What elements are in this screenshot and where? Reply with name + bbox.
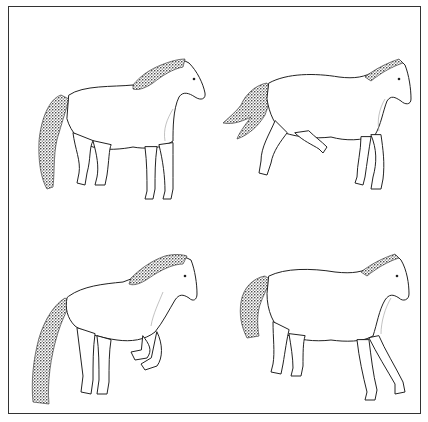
hind-leg-front	[289, 334, 305, 376]
body	[267, 61, 411, 140]
hind-leg-back	[271, 322, 289, 374]
tail	[32, 298, 71, 404]
horse-trotting-illustration	[215, 27, 421, 231]
horse-walking-panel	[215, 229, 421, 422]
horse-walking-illustration	[215, 229, 421, 422]
tail	[240, 276, 271, 338]
hind-leg-back	[73, 133, 93, 185]
body	[66, 257, 197, 340]
front-leg-back	[357, 340, 377, 400]
hind-leg-back	[77, 328, 95, 394]
body	[67, 60, 205, 149]
front-leg-front	[159, 143, 173, 199]
body	[267, 256, 409, 341]
hind-leg-front	[97, 336, 111, 394]
tail	[223, 83, 270, 139]
figure-frame	[8, 6, 421, 414]
horse-standing-panel	[13, 27, 219, 231]
front-leg-front	[371, 135, 384, 189]
horse-rearing-panel	[13, 229, 219, 422]
hind-leg-front	[93, 141, 111, 185]
horse-rearing-illustration	[13, 229, 219, 422]
tail	[39, 95, 69, 189]
front-leg-back	[355, 137, 371, 185]
horse-standing-illustration	[13, 27, 219, 231]
front-leg-back	[145, 147, 157, 199]
hind-leg-back	[259, 121, 287, 175]
horse-trotting-panel	[215, 27, 421, 231]
